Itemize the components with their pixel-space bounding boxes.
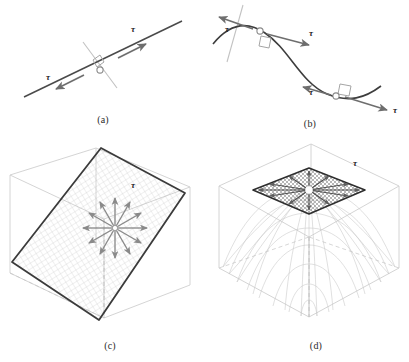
tau-label-a-2: τ <box>46 72 51 82</box>
right-angle-marker-b-lower <box>338 84 351 96</box>
tau-arrow-a-lower-left <box>56 75 84 89</box>
panel-d-svg: τ <box>205 140 409 335</box>
tau-arrow-a-upper-right <box>118 44 146 58</box>
panel-c-svg: τ <box>0 140 205 335</box>
caption-d: (d) <box>296 340 336 351</box>
caption-a: (a) <box>83 114 123 125</box>
tau-arrow-b-lower-right <box>345 97 387 110</box>
panel-b-curve-tangent: τ τ τ τ <box>205 0 409 115</box>
right-angle-marker-b-upper <box>259 36 271 48</box>
tangent-line-a <box>24 21 182 97</box>
tau-label-b-4: τ <box>393 105 398 115</box>
tangency-point-d <box>306 187 312 193</box>
figure-tangent-vectors: τ τ (a) <box>0 0 409 362</box>
tau-label-a-1: τ <box>131 24 136 34</box>
panel-a-svg: τ τ <box>0 0 205 110</box>
panel-a-line-tangent: τ τ <box>0 0 205 110</box>
tau-label-b-2: τ <box>309 28 314 38</box>
caption-b: (b) <box>290 118 330 129</box>
tangency-point-c <box>112 225 117 230</box>
caption-c: (c) <box>90 340 130 351</box>
tangency-point-b-upper <box>257 28 263 34</box>
panel-b-svg: τ τ τ τ <box>205 0 409 115</box>
panel-c-tangent-plane: τ <box>0 140 205 335</box>
tangency-point-b-lower <box>333 93 339 99</box>
tangency-point-a <box>97 67 103 73</box>
curve-b <box>213 26 381 99</box>
tau-label-b-3: τ <box>309 87 314 97</box>
normal-line-b-upper <box>227 5 243 62</box>
panel-d-dome-tangent-plane: τ <box>205 140 409 335</box>
